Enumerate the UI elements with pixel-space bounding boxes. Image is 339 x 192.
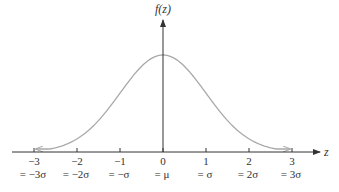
x-sigma-label: = 2σ: [238, 168, 258, 180]
normal-distribution-chart: z f(z) −3= −3σ−2= −2σ−1= −σ0= μ1= σ2= 2σ…: [0, 0, 339, 192]
x-sigma-label: = −3σ: [20, 168, 47, 180]
x-tick-label: 1: [203, 155, 209, 167]
x-axis-ticks: −3= −3σ−2= −2σ−1= −σ0= μ1= σ2= 2σ3= 3σ: [20, 148, 302, 180]
x-sigma-label: = 3σ: [281, 168, 301, 180]
x-sigma-label: = σ: [198, 168, 213, 180]
x-tick-label: −2: [71, 155, 83, 167]
x-sigma-label: = −σ: [108, 168, 129, 180]
x-sigma-label: = μ: [155, 168, 170, 180]
x-sigma-label: = −2σ: [63, 168, 90, 180]
y-axis-label: f(z): [155, 2, 171, 16]
x-tick-label: 0: [160, 155, 166, 167]
x-tick-label: 3: [289, 155, 295, 167]
x-tick-label: −1: [114, 155, 126, 167]
x-tick-label: 2: [246, 155, 252, 167]
x-tick-label: −3: [28, 155, 40, 167]
x-axis-label: z: [323, 145, 329, 159]
